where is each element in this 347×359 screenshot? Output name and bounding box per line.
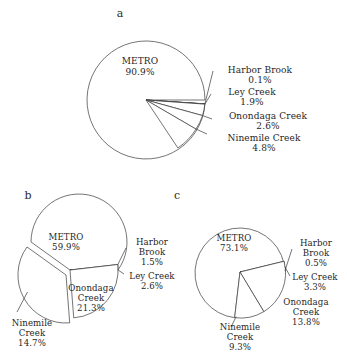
panel-c: c METRO 73.1% Harbor Brook 0.5% Ley Cree… xyxy=(174,189,338,352)
label-b-ninemile-creek-value: 14.7% xyxy=(18,338,46,348)
label-a-onondaga-creek-value: 2.6% xyxy=(256,121,280,131)
label-c-ley-creek-name: Ley Creek xyxy=(292,272,338,282)
label-c-ley-creek-value: 3.3% xyxy=(304,282,326,292)
label-c-ninemile-creek-name-1: Ninemile xyxy=(220,322,260,332)
label-c-onondaga-creek-value: 13.8% xyxy=(292,317,320,327)
leader-a-onondaga-creek xyxy=(203,116,212,119)
leader-b-ley-creek xyxy=(118,270,124,274)
label-a-metro-value: 90.9% xyxy=(125,67,154,77)
label-c-harbor-brook-value: 0.5% xyxy=(305,258,327,268)
label-b-ninemile-creek-name-2: Creek xyxy=(19,328,46,338)
label-c-ninemile-creek-name-2: Creek xyxy=(227,332,254,342)
panel-b-letter: b xyxy=(24,189,31,202)
label-c-harbor-brook-name-2: Brook xyxy=(303,248,330,258)
leader-a-harbor-brook xyxy=(205,71,213,104)
label-c-harbor-brook-name-1: Harbor xyxy=(300,238,333,248)
label-b-harbor-brook-name-1: Harbor xyxy=(136,237,169,247)
label-b-metro-name: METRO xyxy=(49,232,84,242)
panel-c-letter: c xyxy=(174,189,180,202)
label-c-metro-name: METRO xyxy=(217,233,252,243)
label-a-harbor-brook-value: 0.1% xyxy=(248,75,272,85)
label-a-harbor-brook-name: Harbor Brook xyxy=(228,65,293,75)
label-a-ley-creek-value: 1.9% xyxy=(240,97,264,107)
label-a-onondaga-creek-name: Onondaga Creek xyxy=(229,111,308,121)
label-b-onondaga-creek-value: 21.3% xyxy=(77,303,105,313)
panel-a-letter: a xyxy=(117,7,124,20)
label-b-ley-creek-value: 2.6% xyxy=(141,281,163,291)
leader-c-harbor-brook xyxy=(285,249,292,271)
panel-b-slices xyxy=(18,194,127,323)
figure-canvas: a METRO 90.9% Harbor Brook 0.1% xyxy=(0,0,347,359)
label-b-metro-value: 59.9% xyxy=(52,242,80,252)
label-b-ley-creek-name: Ley Creek xyxy=(129,271,175,281)
label-c-ninemile-creek-value: 9.3% xyxy=(229,342,251,352)
label-c-metro-value: 73.1% xyxy=(220,243,248,253)
label-a-ley-creek-name: Ley Creek xyxy=(228,87,276,97)
label-c-onondaga-creek-name-2: Creek xyxy=(293,307,320,317)
label-a-ninemile-creek-value: 4.8% xyxy=(252,143,276,153)
leader-a-ninemile-creek xyxy=(196,129,207,134)
pie-chart-figure: a METRO 90.9% Harbor Brook 0.1% xyxy=(0,0,347,359)
label-b-onondaga-creek-name-2: Creek xyxy=(78,293,105,303)
panel-b: b METRO 59.9% Onondaga Creek 21.3% xyxy=(12,189,176,348)
label-b-harbor-brook-name-2: Brook xyxy=(139,247,166,257)
label-c-onondaga-creek-name-1: Onondaga xyxy=(283,297,328,307)
label-a-ninemile-creek-name: Ninemile Creek xyxy=(227,133,300,143)
panel-a: a METRO 90.9% Harbor Brook 0.1% xyxy=(87,7,308,159)
label-b-harbor-brook-value: 1.5% xyxy=(141,257,163,267)
label-b-ninemile-creek-name-1: Ninemile xyxy=(12,318,52,328)
label-b-onondaga-creek-name-1: Onondaga xyxy=(68,283,113,293)
label-a-metro-name: METRO xyxy=(122,56,158,66)
